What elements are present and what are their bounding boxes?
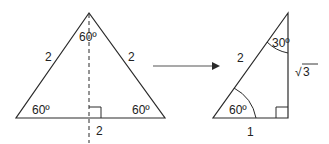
right-triangle: 2 30º 60º 1 √ 3 <box>213 13 318 139</box>
right-arrow-icon <box>153 62 220 70</box>
diagram-canvas: 60º 2 2 60º 60º 2 2 30º 60º 1 √ 3 <box>0 0 329 144</box>
left-base-angle-label: 60º <box>32 103 50 117</box>
apex-angle-label: 60º <box>79 30 97 44</box>
base-label: 2 <box>96 124 103 138</box>
left-side-label: 2 <box>45 50 52 64</box>
right-angle-marker-left <box>89 107 101 118</box>
right-side-label: 2 <box>128 50 135 64</box>
right-angle-marker-right <box>276 107 288 118</box>
equilateral-triangle: 60º 2 2 60º 60º 2 <box>16 13 165 143</box>
top-angle-label: 30º <box>272 36 290 50</box>
base-length-label: 1 <box>247 125 254 139</box>
hypotenuse-label: 2 <box>237 51 244 65</box>
radicand: 3 <box>303 65 310 79</box>
radical-sign: √ <box>295 65 302 79</box>
right-base-angle-label: 60º <box>132 103 150 117</box>
height-label: √ 3 <box>295 64 318 79</box>
bottom-left-angle-label: 60º <box>229 103 247 117</box>
right-triangle-outline <box>213 13 288 118</box>
